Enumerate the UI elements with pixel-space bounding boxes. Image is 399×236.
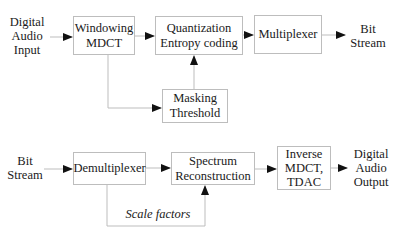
label-line: Stream — [346, 36, 390, 50]
block-label: Windowing — [75, 21, 134, 36]
scale-factors-label: Scale factors — [118, 207, 198, 221]
block-label: Spectrum — [189, 154, 237, 169]
block-label: Masking — [173, 91, 217, 106]
bit-stream-output-label: Bit Stream — [346, 22, 390, 50]
windowing-mdct-block: Windowing MDCT — [73, 16, 135, 55]
digital-audio-output-label: Digital Audio Output — [347, 147, 395, 189]
block-label: Demultiplexer — [73, 161, 145, 176]
label-line: Bit — [4, 154, 46, 168]
block-label: Reconstruction — [175, 169, 251, 184]
block-label: MDCT — [86, 36, 122, 51]
block-label: TDAC — [287, 175, 321, 189]
digital-audio-input-label: Digital Audio Input — [2, 15, 52, 57]
label-line: Audio — [2, 29, 52, 43]
label-line: Digital — [2, 15, 52, 29]
block-label: Threshold — [170, 106, 221, 121]
label-line: Output — [347, 175, 395, 189]
quantization-entropy-coding-block: Quantization Entropy coding — [155, 16, 243, 55]
spectrum-reconstruction-block: Spectrum Reconstruction — [171, 152, 255, 185]
label-line: Bit — [346, 22, 390, 36]
demultiplexer-block: Demultiplexer — [73, 152, 146, 185]
block-label: Multiplexer — [258, 27, 317, 42]
codec-block-diagram: Digital Audio Input Windowing MDCT Quant… — [0, 0, 399, 236]
bit-stream-input-label: Bit Stream — [4, 154, 46, 182]
block-label: Inverse — [286, 147, 323, 161]
label-line: Stream — [4, 168, 46, 182]
block-label: Quantization — [167, 21, 232, 36]
label-line: Audio — [347, 161, 395, 175]
masking-threshold-block: Masking Threshold — [162, 89, 228, 123]
label-line: Digital — [347, 147, 395, 161]
block-label: Entropy coding — [160, 36, 237, 51]
multiplexer-block: Multiplexer — [254, 15, 322, 54]
label-line: Input — [2, 43, 52, 57]
inverse-mdct-tdac-block: Inverse MDCT, TDAC — [277, 146, 331, 190]
block-label: MDCT, — [285, 161, 323, 175]
